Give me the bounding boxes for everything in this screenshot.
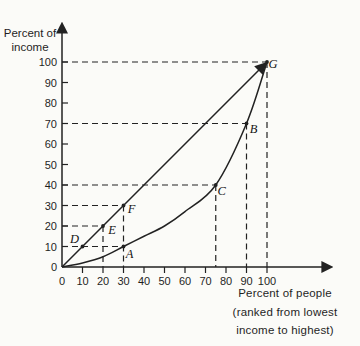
x-axis-title: Percent of people (ranked from lowest in… bbox=[196, 284, 360, 340]
x-axis-title-line2: (ranked from lowest bbox=[196, 303, 360, 322]
axes bbox=[62, 24, 331, 273]
y-tick-label-90: 90 bbox=[45, 77, 57, 89]
y-tick-label-50: 50 bbox=[45, 159, 57, 171]
y-tick-label-100: 100 bbox=[39, 56, 57, 68]
point-label-F: F bbox=[127, 202, 136, 216]
x-tick-label-40: 40 bbox=[138, 275, 150, 287]
x-axis-title-line1: Percent of people bbox=[196, 284, 360, 303]
y-axis-title: Percent of income bbox=[2, 26, 58, 54]
point-label-A: A bbox=[125, 247, 134, 261]
y-axis-title-line1: Percent of bbox=[2, 26, 58, 40]
y-tick-label-80: 80 bbox=[45, 97, 57, 109]
y-tick-label-20: 20 bbox=[45, 220, 57, 232]
point-B bbox=[245, 122, 249, 126]
y-tick-label-70: 70 bbox=[45, 118, 57, 130]
point-label-B: B bbox=[250, 122, 258, 136]
series-line-of-equality bbox=[62, 64, 265, 267]
y-axis-title-line2: income bbox=[2, 40, 58, 54]
y-tick-label-30: 30 bbox=[45, 200, 57, 212]
lorenz-curve-figure: 0102030405060708090100010203040506070809… bbox=[0, 0, 360, 346]
x-tick-label-50: 50 bbox=[158, 275, 170, 287]
point-E bbox=[101, 224, 105, 228]
y-tick-label-60: 60 bbox=[45, 138, 57, 150]
x-axis-title-line3: income to highest) bbox=[196, 321, 360, 340]
point-label-D: D bbox=[69, 232, 79, 246]
point-F bbox=[122, 204, 126, 208]
x-tick-label-20: 20 bbox=[97, 275, 109, 287]
point-label-E: E bbox=[107, 223, 116, 237]
x-tick-label-10: 10 bbox=[76, 275, 88, 287]
series bbox=[62, 62, 267, 267]
x-tick-label-30: 30 bbox=[117, 275, 129, 287]
y-tick-label-40: 40 bbox=[45, 179, 57, 191]
x-tick-label-0: 0 bbox=[59, 275, 65, 287]
point-label-C: C bbox=[218, 184, 227, 198]
y-tick-label-10: 10 bbox=[45, 241, 57, 253]
x-tick-label-60: 60 bbox=[179, 275, 191, 287]
point-D bbox=[81, 245, 85, 249]
point-label-G: G bbox=[268, 57, 277, 71]
y-tick-label-0: 0 bbox=[51, 261, 57, 273]
